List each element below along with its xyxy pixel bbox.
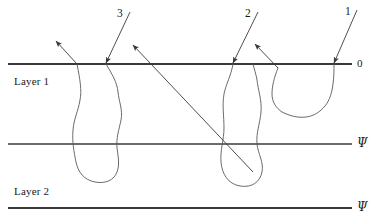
incident-ray-2 — [233, 12, 258, 63]
incident-ray-3 — [106, 12, 130, 63]
scatter-path-middle — [221, 64, 263, 186]
rays-group — [56, 10, 357, 172]
incident-ray-1 — [334, 10, 357, 63]
scatter-path-right — [272, 64, 334, 117]
scatter-path-left — [73, 64, 122, 183]
outgoing-ray-left — [56, 41, 77, 64]
scatter-paths-group — [73, 64, 334, 186]
ray-path-diagram: Layer 1 Layer 2 3 2 1 0 Ψ Ψ — [0, 0, 379, 223]
diagram-canvas — [0, 0, 379, 223]
interface-lines-group — [8, 64, 352, 208]
